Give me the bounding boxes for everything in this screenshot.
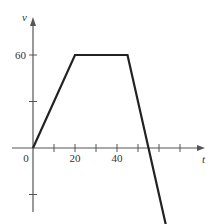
- y-axis-label: v: [22, 11, 27, 23]
- axes: [12, 17, 205, 212]
- x-axis-label: t: [202, 153, 206, 165]
- x-tick-label: 0: [23, 152, 29, 164]
- x-tick-label: 20: [70, 152, 82, 164]
- x-axis-arrow-icon: [197, 145, 205, 151]
- velocity-time-chart: 0204060 t v: [0, 0, 216, 224]
- y-tick-label: 60: [15, 49, 27, 61]
- ticks: [29, 55, 180, 195]
- velocity-curve: [33, 55, 180, 224]
- x-tick-label: 40: [112, 152, 124, 164]
- y-axis-arrow-icon: [30, 17, 36, 26]
